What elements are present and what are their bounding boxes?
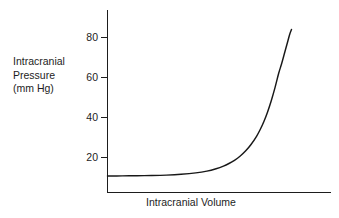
y-tick-label-40: 40 <box>86 111 98 123</box>
y-tick-label-20: 20 <box>86 151 98 163</box>
y-tick-label-80: 80 <box>86 31 98 43</box>
y-axis-title-line-1: Intracranial <box>13 55 91 69</box>
y-axis-title-line-3: (mm Hg) <box>13 82 91 96</box>
chart-plot-area: 20 40 60 80 <box>0 0 339 218</box>
y-axis-title: Intracranial Pressure (mm Hg) <box>13 55 91 96</box>
data-curve-intracranial-compliance <box>108 30 292 176</box>
x-axis-title: Intracranial Volume <box>107 196 275 208</box>
y-axis-tick-labels: 20 40 60 80 <box>86 31 98 163</box>
y-axis-ticks <box>101 38 108 158</box>
chart-figure: 20 40 60 80 Intracranial Pressure (mm Hg… <box>0 0 339 218</box>
y-axis-title-line-2: Pressure <box>13 69 91 83</box>
